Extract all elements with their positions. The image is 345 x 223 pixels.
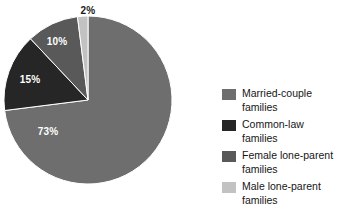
legend-color-swatch	[222, 89, 236, 100]
legend-label: Male lone-parentfamilies	[242, 179, 321, 207]
chart-legend: Married-couplefamiliesCommon-lawfamilies…	[222, 86, 345, 210]
legend-label-line2: families	[242, 193, 321, 207]
legend-item-common-law[interactable]: Common-lawfamilies	[222, 117, 345, 145]
pie-plot-area: 73%15%10%2%	[0, 0, 200, 223]
pie-chart-figure: 73%15%10%2% Married-couplefamiliesCommon…	[0, 0, 345, 223]
slice-value-label-2: 15%	[14, 74, 46, 85]
legend-item-married-couple[interactable]: Married-couplefamilies	[222, 86, 345, 114]
legend-label: Married-couplefamilies	[242, 86, 312, 114]
slice-value-label-4: 2%	[72, 5, 104, 16]
legend-color-swatch	[222, 182, 236, 193]
legend-label-line2: families	[242, 100, 312, 114]
legend-label-line2: families	[242, 131, 304, 145]
legend-color-swatch	[222, 151, 236, 162]
pie-svg	[0, 0, 200, 223]
legend-item-male-lone-parent[interactable]: Male lone-parentfamilies	[222, 179, 345, 207]
legend-item-female-lone-parent[interactable]: Female lone-parentfamilies	[222, 148, 345, 176]
legend-label: Common-lawfamilies	[242, 117, 304, 145]
slice-value-label-3: 10%	[41, 36, 73, 47]
slice-value-label-1: 73%	[32, 126, 64, 137]
legend-color-swatch	[222, 120, 236, 131]
legend-label: Female lone-parentfamilies	[242, 148, 333, 176]
legend-label-line2: families	[242, 162, 333, 176]
